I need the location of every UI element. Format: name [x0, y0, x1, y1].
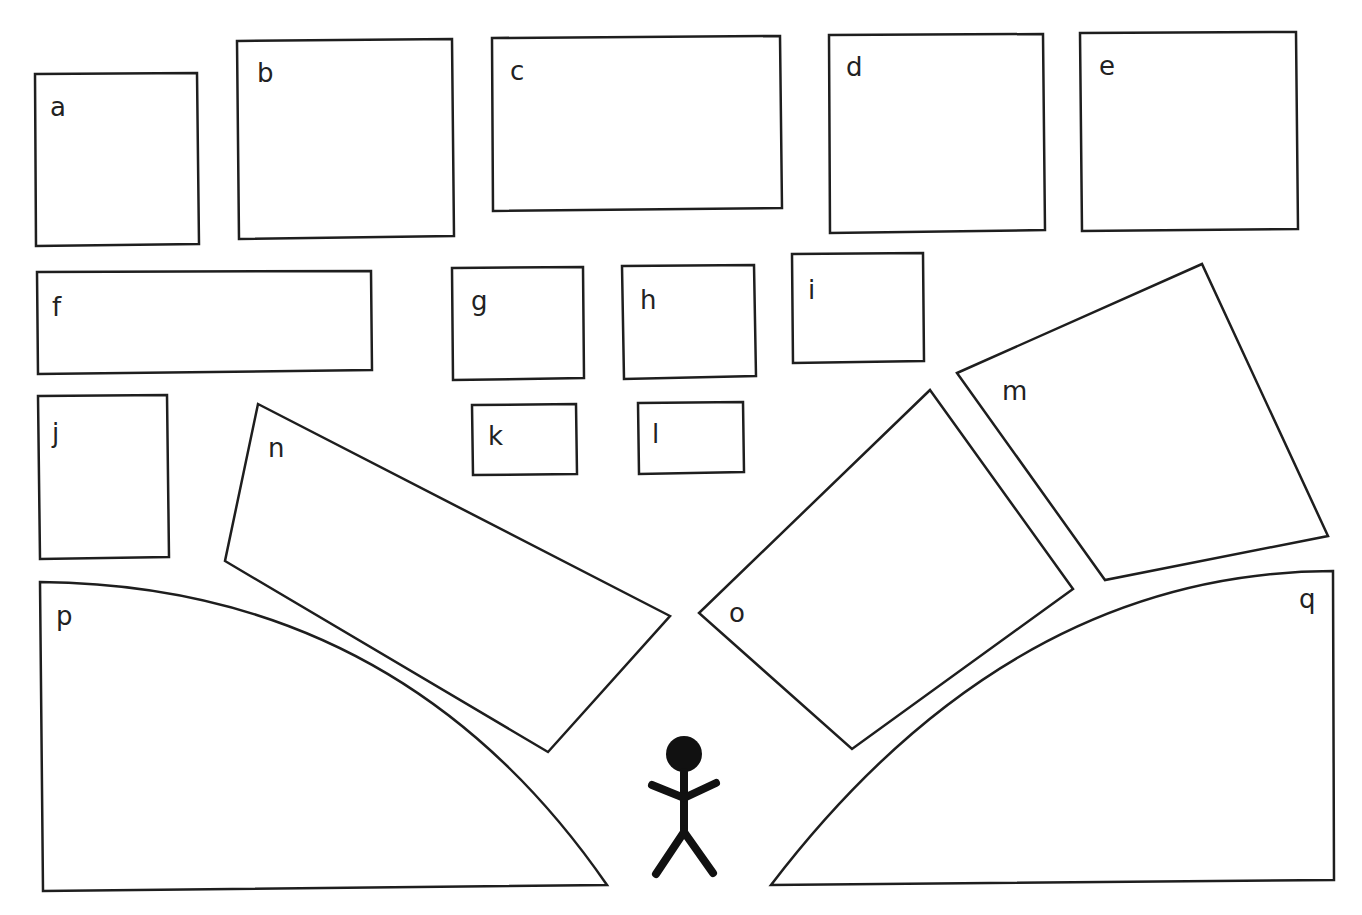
shape-label-h: h — [640, 285, 656, 315]
shape-d: d — [829, 34, 1045, 233]
shape-label-j: j — [51, 418, 59, 448]
shape-label-q: q — [1299, 584, 1316, 614]
shape-j: j — [38, 395, 169, 559]
shape-f: f — [37, 271, 372, 374]
shape-outline-c — [492, 36, 782, 211]
shape-label-a: a — [50, 92, 66, 122]
shape-label-f: f — [52, 292, 62, 322]
shape-g: g — [452, 267, 584, 380]
stick-figure-head — [666, 736, 702, 772]
stick-figure — [652, 736, 716, 874]
shape-label-e: e — [1099, 51, 1115, 81]
shape-outline-h — [622, 265, 756, 379]
shape-label-d: d — [846, 52, 863, 82]
shape-label-m: m — [1002, 376, 1027, 406]
shape-k: k — [472, 404, 577, 475]
shape-label-k: k — [488, 421, 503, 451]
shape-label-n: n — [268, 433, 284, 463]
shape-h: h — [622, 265, 756, 379]
shape-label-c: c — [510, 56, 524, 86]
shape-i: i — [792, 253, 924, 363]
shape-l: l — [638, 402, 744, 474]
shape-label-b: b — [257, 58, 274, 88]
shape-label-g: g — [471, 286, 488, 316]
shape-label-o: o — [729, 598, 745, 628]
diagram-canvas: abcdefghijklmnopq — [0, 0, 1362, 915]
shape-outline-f — [37, 271, 372, 374]
shape-label-i: i — [808, 275, 815, 305]
shape-outline-g — [452, 267, 584, 380]
stick-figure-legs — [656, 832, 713, 874]
shape-label-l: l — [652, 419, 659, 449]
shape-e: e — [1080, 32, 1298, 231]
shape-b: b — [237, 39, 454, 239]
shape-c: c — [492, 36, 782, 211]
shape-a: a — [35, 73, 199, 246]
shape-label-p: p — [56, 601, 73, 631]
shape-outline-i — [792, 253, 924, 363]
